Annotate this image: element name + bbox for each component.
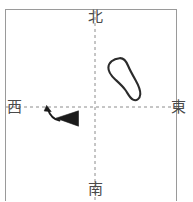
direction-label-south: 南	[81, 182, 109, 197]
direction-label-west: 西	[6, 100, 22, 115]
direction-label-north: 北	[81, 10, 109, 25]
frame-border	[6, 10, 177, 202]
direction-label-east: 東	[170, 100, 186, 115]
compass-diagram: 北 南 西 東	[0, 0, 193, 201]
diagram-canvas	[0, 0, 193, 201]
